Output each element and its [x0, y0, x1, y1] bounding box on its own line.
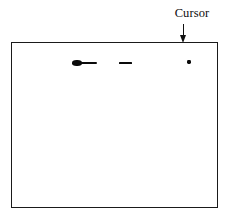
plot-frame — [11, 42, 218, 208]
trace-mark-peak-1-tail — [81, 62, 97, 64]
cursor-annotation-label: Cursor — [155, 6, 229, 20]
trace-mark-peak-3-dot — [187, 60, 191, 64]
trace-layer — [12, 43, 217, 207]
trace-mark-peak-2-dash — [119, 62, 132, 64]
figure-root: Cursor — [0, 0, 229, 219]
